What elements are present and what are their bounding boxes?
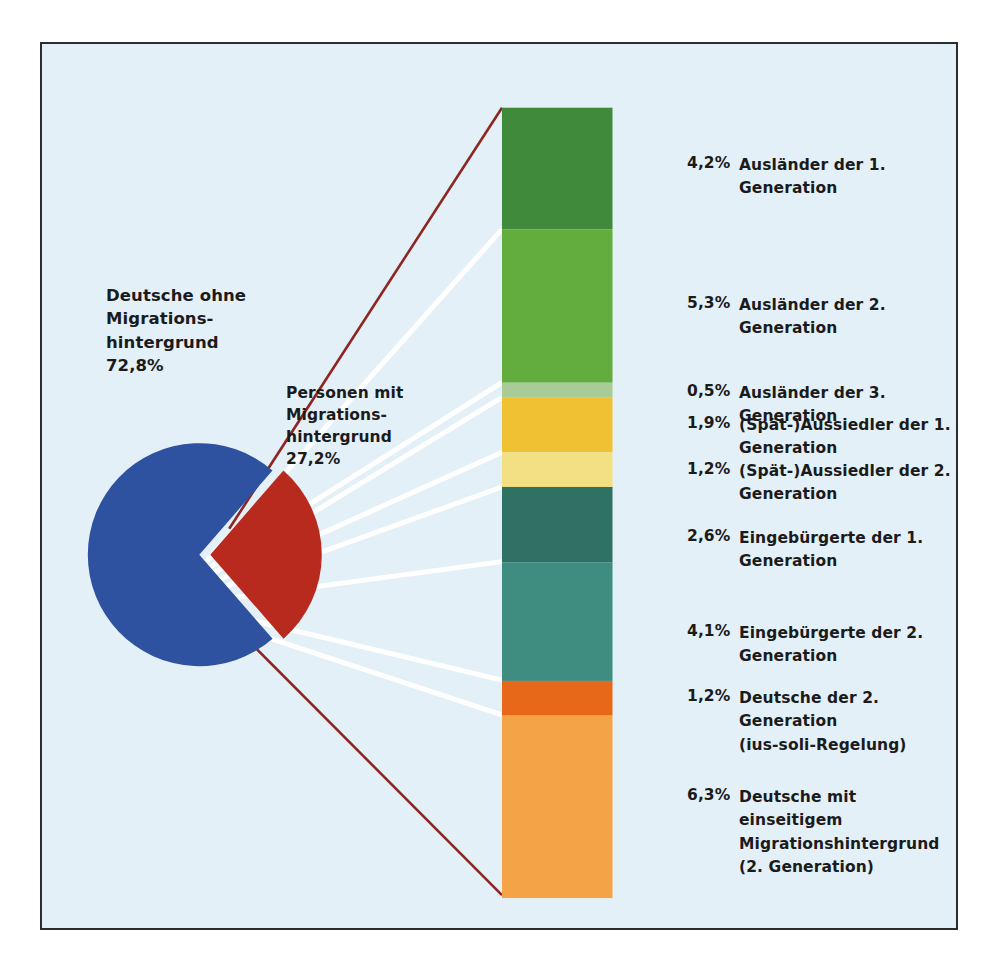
segment-name: Ausländer der 1. Generation — [739, 154, 956, 201]
bar-segment[interactable] — [502, 562, 613, 681]
segment-name: (Spät-)Aussiedler der 2. Generation — [739, 460, 956, 507]
segment-percent: 4,2% — [687, 154, 739, 172]
stacked-bar — [502, 108, 613, 898]
bar-segment[interactable] — [502, 452, 613, 487]
segment-name: Eingebürgerte der 2. Generation — [739, 622, 956, 669]
segment-label: 5,3%Ausländer der 2. Generation — [687, 294, 956, 341]
segment-percent: 1,9% — [687, 414, 739, 432]
segment-name: (Spät-)Aussiedler der 1. Generation — [739, 414, 956, 461]
segment-percent: 5,3% — [687, 294, 739, 312]
segment-name: Deutsche mit einseitigem Migrationshinte… — [739, 786, 956, 879]
pie-label-deutsche-ohne-migrationshintergrund: Deutsche ohne Migrations- hintergrund 72… — [106, 284, 246, 378]
segment-percent: 0,5% — [687, 382, 739, 400]
bar-segment[interactable] — [502, 397, 613, 452]
segment-percent: 1,2% — [687, 687, 739, 705]
bar-segment[interactable] — [502, 383, 613, 397]
pie-label-personen-mit-migrationshintergrund: Personen mit Migrations- hintergrund 27,… — [286, 382, 403, 470]
segment-label: 4,2%Ausländer der 1. Generation — [687, 154, 956, 201]
segment-percent: 1,2% — [687, 460, 739, 478]
segment-label: 1,9%(Spät-)Aussiedler der 1. Generation — [687, 414, 956, 461]
segment-name: Eingebürgerte der 1. Generation — [739, 527, 956, 574]
segment-label: 1,2%Deutsche der 2. Generation (ius-soli… — [687, 687, 956, 757]
segment-percent: 6,3% — [687, 786, 739, 804]
bar-segment[interactable] — [502, 229, 613, 382]
bar-segment[interactable] — [502, 108, 613, 230]
segment-label: 6,3%Deutsche mit einseitigem Migrationsh… — [687, 786, 956, 879]
segment-percent: 4,1% — [687, 622, 739, 640]
segment-name: Deutsche der 2. Generation (ius-soli-Reg… — [739, 687, 956, 757]
segment-label: 2,6%Eingebürgerte der 1. Generation — [687, 527, 956, 574]
chart-figure: Deutsche ohne Migrations- hintergrund 72… — [40, 42, 958, 930]
segment-name: Ausländer der 2. Generation — [739, 294, 956, 341]
segment-label: 1,2%(Spät-)Aussiedler der 2. Generation — [687, 460, 956, 507]
bar-segment[interactable] — [502, 716, 613, 898]
bar-segment[interactable] — [502, 487, 613, 562]
bar-segment[interactable] — [502, 681, 613, 716]
segment-label: 4,1%Eingebürgerte der 2. Generation — [687, 622, 956, 669]
segment-percent: 2,6% — [687, 527, 739, 545]
pie-chart — [88, 443, 322, 666]
callout-line-bottom — [229, 621, 502, 895]
